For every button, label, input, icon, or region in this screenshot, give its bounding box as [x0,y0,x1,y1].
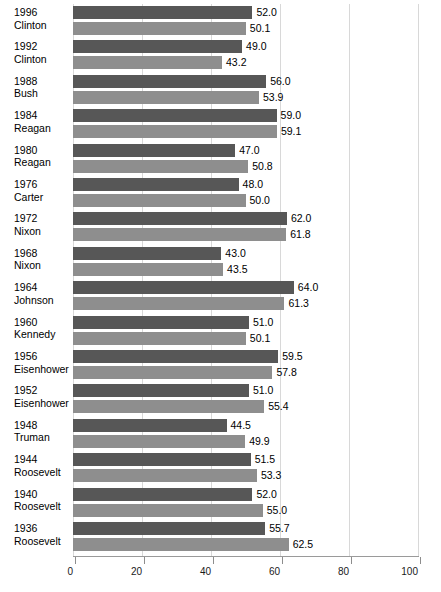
category-name: Eisenhower [14,397,70,410]
bar-winner[interactable] [73,366,272,379]
bar-group: 1988Bush56.053.9 [0,75,441,104]
category-name: Carter [14,191,70,204]
bar-group: 1992Clinton49.043.2 [0,40,441,69]
category-year: 1968 [14,247,70,260]
category-name: Roosevelt [14,500,70,513]
bar-value-winner: 43.5 [227,263,247,276]
bar-turnout[interactable] [73,144,235,157]
bar-turnout[interactable] [73,178,239,191]
category-year: 1992 [14,40,70,53]
category-label: 1956Eisenhower [14,350,70,375]
category-name: Truman [14,431,70,444]
bar-winner[interactable] [73,160,248,173]
bar-turnout[interactable] [73,40,242,53]
bar-turnout[interactable] [73,281,294,294]
category-label: 1936Roosevelt [14,522,70,547]
bar-value-turnout: 59.0 [281,109,301,122]
bar-value-turnout: 48.0 [243,178,263,191]
category-label: 1984Reagan [14,109,70,134]
bar-value-winner: 49.9 [249,435,269,448]
category-year: 1996 [14,6,70,19]
bar-value-turnout: 56.0 [270,75,290,88]
category-year: 1964 [14,281,70,294]
category-label: 1964Johnson [14,281,70,306]
bar-value-turnout: 62.0 [291,212,311,225]
category-name: Nixon [14,259,70,272]
category-year: 1988 [14,75,70,88]
x-tick-20 [144,557,145,564]
bar-group: 1968Nixon43.043.5 [0,247,441,276]
bar-turnout[interactable] [73,384,249,397]
bar-winner[interactable] [73,400,264,413]
bar-winner[interactable] [73,194,246,207]
bar-winner[interactable] [73,91,259,104]
bar-group: 1944Roosevelt51.553.3 [0,453,441,482]
bar-winner[interactable] [73,469,257,482]
bar-chart: 020406080100 1996Clinton52.050.11992Clin… [0,0,441,592]
category-name: Reagan [14,156,70,169]
category-label: 1944Roosevelt [14,453,70,478]
x-tick-label-0: 0 [33,566,73,577]
bar-turnout[interactable] [73,350,278,363]
x-tick-label-100: 100 [378,566,418,577]
bar-winner[interactable] [73,538,289,551]
category-year: 1956 [14,350,70,363]
bar-winner[interactable] [73,125,277,138]
bar-value-turnout: 44.5 [231,419,251,432]
bar-value-turnout: 47.0 [239,144,259,157]
category-label: 1952Eisenhower [14,384,70,409]
bar-value-winner: 50.8 [252,160,272,173]
category-label: 1980Reagan [14,144,70,169]
category-label: 1996Clinton [14,6,70,31]
category-label: 1992Clinton [14,40,70,65]
bar-value-turnout: 52.0 [256,488,276,501]
bar-turnout[interactable] [73,6,252,19]
bar-turnout[interactable] [73,316,249,329]
x-tick-80 [351,557,352,564]
category-label: 1940Roosevelt [14,488,70,513]
bar-winner[interactable] [73,297,284,310]
bar-value-winner: 50.1 [250,22,270,35]
bar-group: 1960Kennedy51.050.1 [0,316,441,345]
category-year: 1972 [14,212,70,225]
bar-value-turnout: 43.0 [225,247,245,260]
x-tick-40 [213,557,214,564]
x-tick-label-40: 40 [171,566,211,577]
bar-turnout[interactable] [73,488,252,501]
bar-winner[interactable] [73,22,246,35]
bar-winner[interactable] [73,435,245,448]
bar-group: 1952Eisenhower51.055.4 [0,384,441,413]
bar-turnout[interactable] [73,419,227,432]
category-year: 1960 [14,316,70,329]
category-name: Roosevelt [14,466,70,479]
category-name: Clinton [14,19,70,32]
bar-turnout[interactable] [73,453,251,466]
category-label: 1972Nixon [14,212,70,237]
bar-group: 1956Eisenhower59.557.8 [0,350,441,379]
bar-value-turnout: 51.5 [255,453,275,466]
bar-turnout[interactable] [73,212,287,225]
category-name: Roosevelt [14,535,70,548]
bar-winner[interactable] [73,332,246,345]
bar-value-turnout: 51.0 [253,316,273,329]
bar-turnout[interactable] [73,75,266,88]
bar-winner[interactable] [73,263,223,276]
bar-turnout[interactable] [73,522,265,535]
x-tick-60 [282,557,283,564]
bar-turnout[interactable] [73,247,221,260]
category-year: 1952 [14,384,70,397]
category-label: 1960Kennedy [14,316,70,341]
bar-winner[interactable] [73,228,286,241]
bar-value-winner: 62.5 [293,538,313,551]
bar-value-winner: 53.9 [263,91,283,104]
bar-turnout[interactable] [73,109,277,122]
bar-value-winner: 61.3 [288,297,308,310]
bar-group: 1980Reagan47.050.8 [0,144,441,173]
bar-winner[interactable] [73,56,222,69]
x-tick-100 [420,557,421,564]
bar-winner[interactable] [73,504,263,517]
category-year: 1980 [14,144,70,157]
bar-value-winner: 55.0 [267,504,287,517]
category-label: 1976Carter [14,178,70,203]
bar-value-winner: 50.0 [250,194,270,207]
